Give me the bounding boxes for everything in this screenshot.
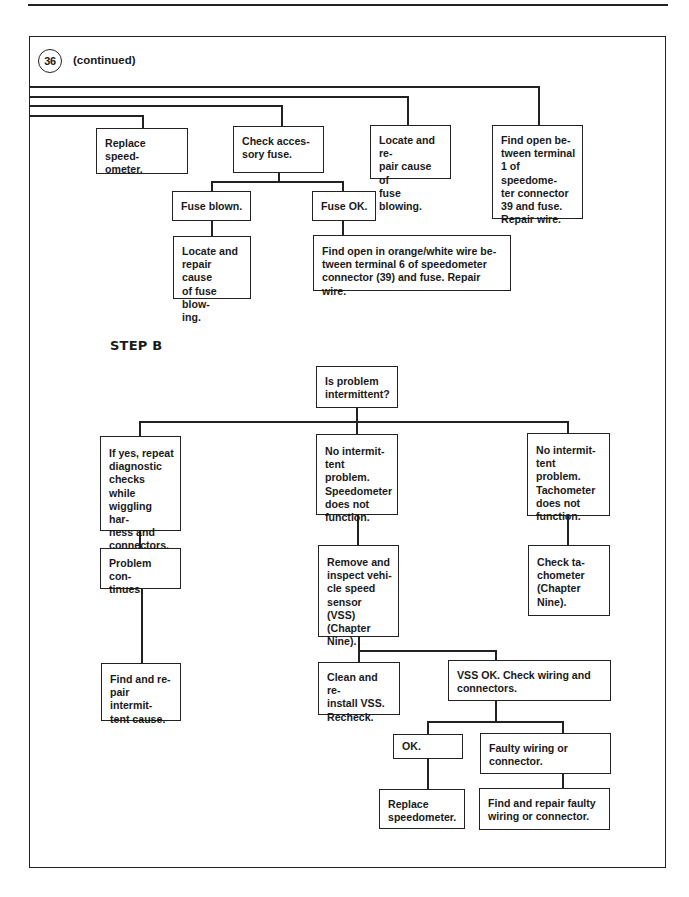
problem-continues-box: Problem con- tinues. [100, 548, 181, 589]
connector [211, 181, 343, 183]
find-repair-intermittent-box: Find and re- pair intermit- tent cause. [101, 663, 181, 721]
vss-ok-check-wiring-box: VSS OK. Check wiring and connectors. [448, 660, 611, 701]
remove-inspect-vss-box: Remove and inspect vehi- cle speed senso… [318, 545, 399, 637]
connector [211, 219, 213, 237]
fuse-blown-box: Fuse blown. [172, 191, 251, 221]
if-yes-repeat-checks-box: If yes, repeat diagnostic checks while w… [100, 436, 181, 531]
connector [427, 757, 429, 790]
connector [538, 86, 540, 126]
connector [562, 772, 564, 789]
replace-speedometer-final-box: Replace speedometer. [379, 789, 465, 829]
connector [427, 721, 564, 723]
connector [356, 421, 358, 435]
locate-repair-fuse-blowing-left-box: Locate and repair cause of fuse blow- in… [173, 236, 251, 299]
connector [358, 650, 496, 652]
step-b-title: STEP B [110, 338, 162, 353]
connector [141, 587, 143, 664]
find-open-terminal-1-box: Find open be- tween terminal 1 of speedo… [492, 125, 583, 219]
check-accessory-fuse-box: Check acces- sory fuse. [233, 126, 324, 173]
connector [30, 96, 409, 98]
check-tachometer-box: Check ta- chometer (Chapter Nine). [528, 545, 610, 616]
connector [30, 105, 283, 107]
connector [30, 115, 144, 117]
connector [495, 699, 497, 723]
connector [142, 115, 144, 129]
step-number-badge: 36 [38, 49, 62, 73]
connector [139, 421, 141, 437]
no-intermittent-speedometer-box: No intermit- tent problem. Speedometer d… [316, 434, 398, 515]
replace-speedometer-box: Replace speed- ometer. [96, 128, 188, 174]
find-repair-faulty-wiring-box: Find and repair faulty wiring or connect… [479, 788, 610, 830]
find-open-orange-white-box: Find open in orange/white wire be- tween… [313, 235, 511, 291]
fuse-ok-box: Fuse OK. [312, 191, 376, 221]
connector [427, 721, 429, 735]
page-header-rule [28, 4, 668, 6]
connector [139, 421, 568, 423]
connector [407, 96, 409, 126]
faulty-wiring-box: Faulty wiring or connector. [480, 733, 611, 774]
continued-label: (continued) [73, 54, 136, 66]
is-problem-intermittent-box: Is problem intermittent? [316, 366, 398, 408]
clean-reinstall-vss-box: Clean and re- install VSS. Recheck. [318, 662, 400, 715]
connector [30, 86, 540, 88]
no-intermittent-tachometer-box: No intermit- tent problem. Tachometer do… [527, 433, 610, 516]
locate-repair-fuse-blowing-box: Locate and re- pair cause of fuse blowin… [370, 125, 451, 179]
connector [342, 219, 344, 236]
ok-box: OK. [393, 734, 463, 759]
connector [281, 105, 283, 127]
